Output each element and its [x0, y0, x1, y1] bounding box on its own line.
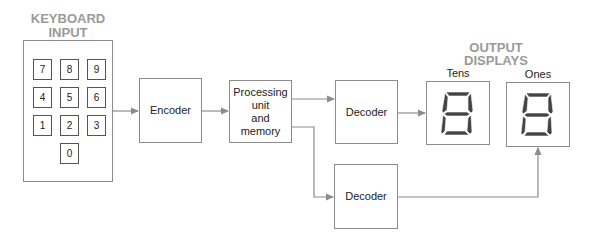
- decoder-tens-block: Decoder: [335, 80, 398, 144]
- key-0[interactable]: 0: [60, 143, 79, 164]
- ones-label: Ones: [506, 68, 570, 80]
- keyboard-title: KEYBOARD INPUT: [18, 12, 118, 40]
- decoder-tens-label: Decoder: [346, 106, 388, 119]
- processing-label-line4: memory: [241, 125, 281, 138]
- key-8[interactable]: 8: [60, 59, 79, 80]
- ones-display: [506, 82, 570, 147]
- key-1[interactable]: 1: [33, 115, 52, 136]
- output-title: OUTPUT DISPLAYS: [446, 41, 546, 67]
- key-4[interactable]: 4: [33, 87, 52, 108]
- seven-segment-8-icon: [427, 82, 489, 144]
- keyboard-title-line1: KEYBOARD: [18, 12, 118, 26]
- processing-block: Processing unit and memory: [229, 80, 292, 143]
- key-5[interactable]: 5: [60, 87, 79, 108]
- output-title-line2: DISPLAYS: [446, 54, 546, 67]
- key-9[interactable]: 9: [87, 59, 106, 80]
- seven-segment-8-icon: [507, 83, 569, 146]
- processing-label-line3: and: [251, 112, 269, 125]
- key-7[interactable]: 7: [33, 59, 52, 80]
- processing-label-line1: Processing: [233, 86, 287, 99]
- processing-label-line2: unit: [252, 99, 270, 112]
- tens-display: [426, 81, 490, 145]
- tens-label: Tens: [426, 67, 490, 79]
- decoder-ones-block: Decoder: [334, 164, 398, 229]
- keyboard-title-line2: INPUT: [18, 26, 118, 40]
- encoder-block: Encoder: [139, 78, 202, 143]
- encoder-label: Encoder: [150, 104, 191, 117]
- decoder-ones-label: Decoder: [345, 190, 387, 203]
- key-3[interactable]: 3: [87, 115, 106, 136]
- key-2[interactable]: 2: [60, 115, 79, 136]
- key-6[interactable]: 6: [87, 87, 106, 108]
